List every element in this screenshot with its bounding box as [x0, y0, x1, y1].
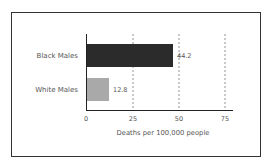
category-label-black-males: Black Males	[37, 52, 79, 60]
category-label-white-males: White Males	[35, 86, 78, 94]
bar-chart: Black Males White Males 44.2 12.8 0 25 5…	[0, 0, 270, 166]
x-tick-0: 0	[84, 115, 88, 123]
x-tick-50: 50	[175, 115, 183, 123]
data-label-black-males: 44.2	[177, 52, 191, 60]
bar-white-males	[87, 78, 109, 101]
data-label-white-males: 12.8	[113, 86, 127, 94]
x-tick-75: 75	[221, 115, 229, 123]
x-axis-title: Deaths per 100,000 people	[116, 129, 209, 137]
x-tick-25: 25	[129, 115, 137, 123]
bar-black-males	[87, 44, 173, 67]
